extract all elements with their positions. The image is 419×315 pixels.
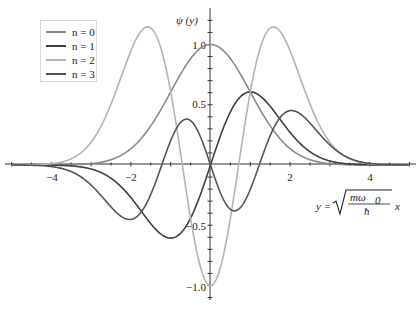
legend-label: n = 3 (72, 68, 95, 80)
x-axis-title: y = mω 0 ħ x (315, 190, 400, 217)
legend-label: n = 1 (72, 40, 95, 52)
y-tick-label: −1.0 (186, 281, 206, 293)
legend-swatch (46, 73, 66, 75)
legend: n = 0 n = 1 n = 2 n = 3 (40, 20, 97, 82)
legend-item-n3: n = 3 (46, 67, 95, 81)
y-tick-label: 0.5 (192, 98, 206, 110)
x-axis-title-prefix: y = (315, 200, 331, 212)
legend-swatch (46, 59, 66, 61)
x-tick-label: 2 (287, 171, 293, 183)
legend-label: n = 2 (72, 54, 95, 66)
x-tick-label: −2 (125, 171, 137, 183)
y-axis-title: ψ (y) (176, 14, 198, 27)
x-tick-label: −4 (46, 171, 58, 183)
legend-swatch (46, 31, 66, 33)
legend-item-n0: n = 0 (46, 25, 95, 39)
legend-swatch (46, 45, 66, 47)
x-tick-label: 4 (367, 171, 373, 183)
x-axis-title-numerator: mω (350, 191, 366, 203)
x-axis-title-denominator: ħ (364, 205, 370, 217)
legend-item-n2: n = 2 (46, 53, 95, 67)
x-axis-title-suffix: x (394, 200, 400, 212)
legend-item-n1: n = 1 (46, 39, 95, 53)
legend-label: n = 0 (72, 26, 95, 38)
